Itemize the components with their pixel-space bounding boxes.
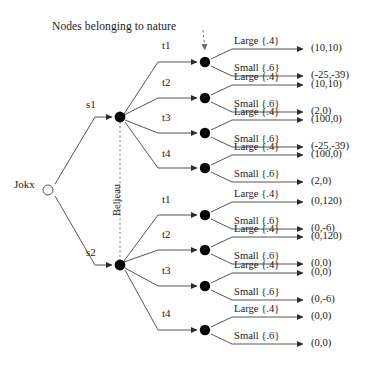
chance-label-small: Small {.6} (234, 287, 279, 298)
chance-label-large: Large {.4} (234, 189, 279, 200)
node-root-jokx[interactable] (43, 185, 53, 195)
payoff-value: (0,120) (311, 196, 342, 207)
chance-label-large: Large {.4} (234, 224, 279, 235)
payoff-value: (0,0) (311, 338, 331, 349)
payoff-value: (2,0) (311, 176, 331, 187)
action-label-s1-t4: t4 (162, 148, 171, 159)
root-player-label: Jokx (14, 179, 35, 190)
chance-label-large: Large {.4} (234, 36, 279, 47)
node-nature-8[interactable] (200, 325, 210, 335)
information-set-label: Beljeau (112, 184, 123, 216)
payoff-value: (0,0) (311, 267, 331, 278)
game-tree-figure: Nodes belonging to nature Jokx Beljeau s… (0, 0, 365, 365)
nature-annotation-arrow (203, 30, 205, 50)
action-label-s2-t1: t1 (162, 194, 171, 205)
chance-label-small: Small {.6} (234, 169, 279, 180)
payoff-value: (10,10) (311, 43, 342, 54)
node-nature-2[interactable] (200, 93, 210, 103)
action-label-s2-t2: t2 (162, 229, 171, 240)
action-label-s1-t1: t1 (162, 40, 171, 51)
action-label-s1-t3: t3 (162, 112, 171, 123)
node-nature-7[interactable] (200, 281, 210, 291)
node-s2[interactable] (115, 260, 126, 271)
chance-label-large: Large {.4} (234, 72, 279, 83)
chance-label-large: Large {.4} (234, 260, 279, 271)
root-branches (55, 117, 112, 265)
node-nature-6[interactable] (200, 245, 210, 255)
s2-branches (124, 215, 197, 330)
chance-label-small: Small {.6} (234, 331, 279, 342)
s1-branches (124, 62, 197, 168)
branch-label-s1: s1 (86, 99, 96, 110)
chance-label-large: Large {.4} (234, 107, 279, 118)
node-nature-3[interactable] (200, 128, 210, 138)
node-s1[interactable] (115, 112, 126, 123)
payoff-value: (100,0) (311, 149, 342, 160)
chance-label-large: Large {.4} (234, 142, 279, 153)
payoff-value: (0,0) (311, 311, 331, 322)
nature-caption: Nodes belonging to nature (52, 21, 176, 33)
payoff-value: (10,10) (311, 79, 342, 90)
action-label-s1-t2: t2 (162, 77, 171, 88)
payoff-value: (100,0) (311, 114, 342, 125)
action-label-s2-t3: t3 (162, 265, 171, 276)
node-nature-4[interactable] (200, 163, 210, 173)
chance-label-large: Large {.4} (234, 304, 279, 315)
node-nature-1[interactable] (200, 57, 210, 67)
payoff-value: (0,120) (311, 231, 342, 242)
payoff-value: (0,-6) (311, 294, 335, 305)
node-nature-5[interactable] (200, 210, 210, 220)
branch-label-s2: s2 (86, 247, 96, 258)
action-label-s2-t4: t4 (162, 308, 171, 319)
